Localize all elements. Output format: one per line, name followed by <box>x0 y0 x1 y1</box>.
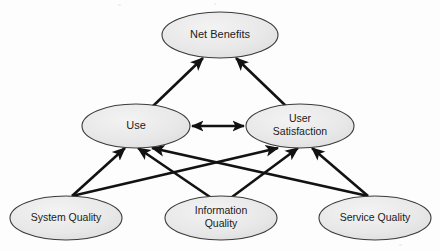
edge-use-to-net-benefits <box>152 58 203 107</box>
node-label-user-satisfaction: User <box>289 112 312 124</box>
node-net-benefits[interactable]: Net Benefits <box>162 12 278 58</box>
node-system-quality[interactable]: System Quality <box>10 196 122 240</box>
node-label-information-quality: Quality <box>205 217 238 229</box>
diagram-canvas: Net BenefitsUseUserSatisfactionSystem Qu… <box>0 0 440 251</box>
edge-satisfaction-to-net-benefits <box>236 58 287 107</box>
node-label-service-quality: Service Quality <box>340 211 411 223</box>
node-service-quality[interactable]: Service Quality <box>319 196 431 240</box>
node-label-information-quality: Information <box>195 204 248 216</box>
node-label-net-benefits: Net Benefits <box>190 28 250 40</box>
edge-information-quality-to-use <box>138 148 210 197</box>
edge-service-quality-to-use <box>152 148 368 196</box>
node-label-system-quality: System Quality <box>31 211 102 223</box>
node-label-use: Use <box>126 119 146 131</box>
node-information-quality[interactable]: InformationQuality <box>165 196 277 240</box>
node-use[interactable]: Use <box>82 104 190 148</box>
node-user-satisfaction[interactable]: UserSatisfaction <box>246 104 354 148</box>
is-success-model-diagram: Net BenefitsUseUserSatisfactionSystem Qu… <box>0 0 440 251</box>
node-label-user-satisfaction: Satisfaction <box>273 125 327 137</box>
